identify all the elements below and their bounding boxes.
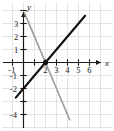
tick-labels: 23456-1321-1-2-4 [8, 19, 91, 120]
line-line-1 [16, 16, 85, 98]
y-axis-label: y [26, 2, 31, 12]
axes [3, 12, 101, 128]
y-tick-label: -4 [10, 110, 18, 120]
coordinate-graph: 23456-1321-1-2-4 x y [0, 0, 114, 131]
y-tick-label: -1 [10, 71, 17, 81]
x-tick-label: 2 [43, 65, 47, 75]
x-tick-label: 3 [54, 65, 58, 75]
y-tick-label: 2 [14, 32, 18, 42]
x-axis-label: x [104, 58, 109, 68]
data-lines [16, 13, 85, 120]
x-tick-label: 6 [87, 65, 91, 75]
y-tick-label: 3 [14, 19, 18, 29]
x-tick-label: 5 [76, 65, 80, 75]
y-tick-label: 1 [14, 45, 18, 55]
graph-svg: 23456-1321-1-2-4 x y [0, 0, 114, 131]
x-tick-label: 4 [65, 65, 70, 75]
y-tick-label: -2 [10, 84, 17, 94]
